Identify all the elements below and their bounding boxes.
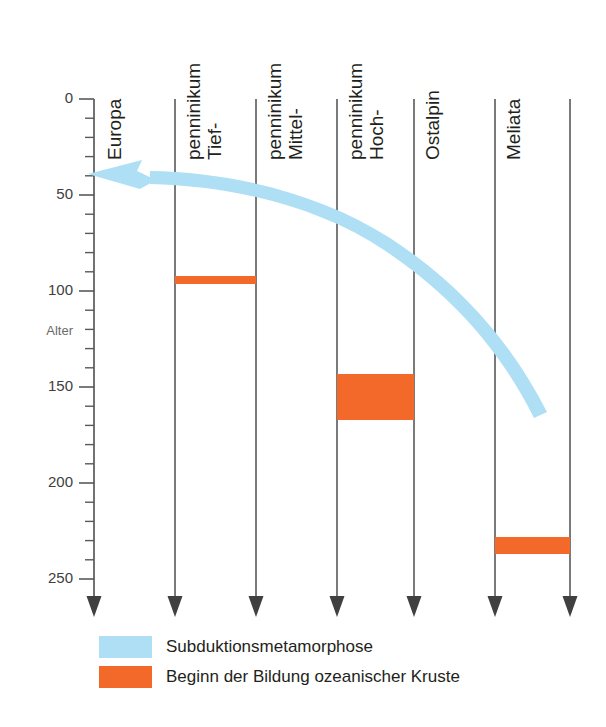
column-label-hochpenninikum-line2: penninikum [345, 63, 366, 160]
axis-tick-labels: 0 50 100 150 200 250 Alter [46, 89, 73, 586]
tick-label-150: 150 [48, 377, 73, 394]
tick-label-250: 250 [48, 569, 73, 586]
tick-label-0: 0 [65, 89, 73, 106]
arrowhead-mittelpenninikum [249, 596, 264, 617]
tick-label-50: 50 [56, 185, 73, 202]
legend-label-subduktionsmetamorphose: Subduktionsmetamorphose [166, 637, 373, 656]
legend-label-ozeanische-kruste: Beginn der Bildung ozeanischer Kruste [166, 667, 460, 686]
axis-caption-alter: Alter [46, 323, 73, 338]
column-label-hochpenninikum-line1: Hoch- [366, 109, 387, 160]
column-label-tiefpenninikum-line2: penninikum [183, 63, 204, 160]
column-label-ostalpin: Ostalpin [422, 90, 443, 160]
arrowhead-europa [87, 596, 102, 617]
axis-ticks [79, 99, 94, 579]
tick-label-100: 100 [48, 281, 73, 298]
column-label-mittelpenninikum-line2: penninikum [264, 63, 285, 160]
column-label-meliata: Meliata [503, 98, 524, 160]
arrowhead-right-edge [563, 596, 578, 617]
arrowhead-hochpenninikum [330, 596, 345, 617]
figure-canvas: 0 50 100 150 200 250 Alter Europa Tief- … [0, 0, 606, 727]
arrowhead-tiefpenninikum [168, 596, 183, 617]
column-label-mittelpenninikum-line1: Mittel- [285, 108, 306, 160]
column-label-tiefpenninikum-line1: Tief- [204, 123, 225, 160]
subduction-band-arrowhead [88, 160, 156, 189]
oceanic-crust-bars [175, 276, 570, 554]
legend: Subduktionsmetamorphose Beginn der Bildu… [99, 636, 460, 688]
bar-hochpenninikum [337, 374, 414, 420]
bar-meliata [495, 537, 570, 554]
column-label-europa: Europa [104, 98, 125, 160]
legend-swatch-subduktionsmetamorphose [99, 636, 152, 658]
subduktionsmetamorphose-band [88, 160, 547, 418]
legend-swatch-ozeanische-kruste [99, 666, 152, 688]
geochronology-diagram: 0 50 100 150 200 250 Alter Europa Tief- … [0, 0, 606, 727]
column-labels: Europa Tief- penninikum Mittel- penninik… [104, 63, 524, 160]
tick-label-200: 200 [48, 473, 73, 490]
arrowhead-ostalpin [407, 596, 422, 617]
bar-tiefpenninikum [175, 276, 256, 284]
arrowhead-meliata [488, 596, 503, 617]
